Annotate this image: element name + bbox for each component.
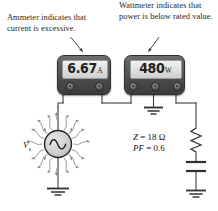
wattmeter-reading: 480W [139,62,172,76]
capacitor-symbol [186,162,206,171]
wattmeter-unit: W [165,66,172,75]
ray-short-ne [68,128,72,135]
wire-source-to-ammeter-corner [58,103,63,107]
ray-e [74,141,90,144]
ammeter-value: 6.67 [67,60,96,76]
ammeter: 6.67A [57,55,111,95]
ray-ssw [48,158,52,173]
circuit-figure: Ammeter indicates that current is excess… [0,0,218,211]
wattmeter-terminal-middle [151,82,160,91]
ray-nne [64,115,68,130]
ac-voltage-source [45,131,72,158]
resistor-symbol [191,128,201,152]
ray-wnw [32,130,44,139]
ground-source [47,189,69,196]
ammeter-unit: A [97,66,102,75]
ray-sse [64,158,68,173]
ray-ene [72,130,84,139]
impedance-symbol: Z [133,132,138,142]
ray-ese [72,150,84,159]
ray-short-se [68,153,72,160]
wattmeter-leader-arrow [149,37,160,52]
load-branch [186,128,206,171]
impedance-value: = 18 Ω [140,132,165,142]
power-factor-value: = 0.6 [146,143,165,153]
ground-wattmeter [144,108,163,115]
ammeter-leader-arrow [71,37,83,52]
ammeter-terminal-left [66,82,75,91]
ammeter-reading: 6.67A [67,62,102,76]
ground-load [186,191,206,198]
source-label-subscript: s [29,145,31,152]
ray-nnw [48,115,52,130]
ammeter-display: 6.67A [62,60,108,79]
wattmeter-value: 480 [139,60,164,76]
power-factor-symbol: PF [133,143,144,153]
source-voltage-label: Vs [23,140,31,152]
wattmeter: 480W [124,55,185,95]
wattmeter-display: 480W [130,60,182,79]
ground-symbols [47,108,206,198]
ray-wsw [32,150,44,159]
circuit-wires [58,89,196,190]
wattmeter-terminal-left [129,82,138,91]
power-factor-label: PF = 0.6 [133,142,165,154]
annotation-leader-arrows [71,37,160,52]
ray-short-nw [45,128,49,135]
ammeter-terminal-right [95,82,104,91]
wattmeter-terminal-right [173,82,182,91]
ray-short-sw [45,153,49,160]
circuit-vector-layer [0,0,218,211]
